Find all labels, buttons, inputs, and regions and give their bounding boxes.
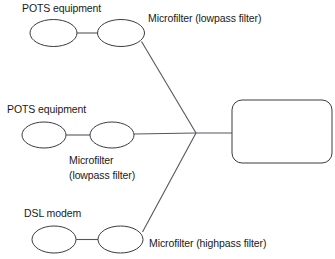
- node-pots-equipment-middle: [22, 122, 66, 148]
- label-microfilter-lowpass-middle-line2: (lowpass filter): [69, 168, 135, 183]
- edge-filter-highpass-to-junction: [143, 133, 197, 232]
- label-microfilter-lowpass-top: Microfilter (lowpass filter): [148, 11, 261, 26]
- node-microfilter-lowpass-middle: [90, 122, 134, 148]
- edge-filter-middle-to-junction: [134, 133, 196, 134]
- node-network-interface-box: [232, 100, 332, 163]
- diagram-canvas: POTS equipment Microfilter (lowpass filt…: [0, 0, 335, 259]
- label-dsl-modem: DSL modem: [24, 206, 81, 221]
- node-pots-equipment-top: [30, 20, 77, 47]
- label-pots-equipment-middle: POTS equipment: [7, 102, 86, 117]
- node-dsl-modem: [32, 226, 76, 253]
- label-microfilter-lowpass-middle-line1: Microfilter: [69, 153, 113, 168]
- edge-filter-top-to-junction: [142, 42, 197, 134]
- label-pots-equipment-top: POTS equipment: [22, 1, 101, 16]
- node-microfilter-highpass: [98, 226, 143, 253]
- label-microfilter-highpass: Microfilter (highpass filter): [149, 236, 266, 251]
- node-microfilter-lowpass-top: [98, 20, 145, 47]
